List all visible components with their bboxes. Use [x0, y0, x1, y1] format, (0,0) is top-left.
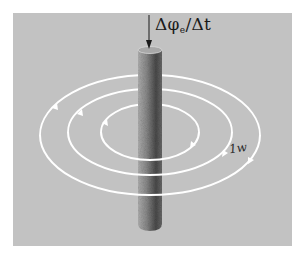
- flux-arrow-icon: [146, 15, 152, 49]
- delta-t: Δt: [191, 14, 211, 34]
- delta-symbol: Δ: [155, 14, 168, 34]
- phi-symbol: φ: [168, 14, 180, 34]
- conductor-rod: [138, 47, 162, 232]
- flux-change-label: Δφe/Δt: [155, 14, 211, 35]
- conductor-field-diagram: [0, 0, 300, 257]
- turn-label: 1w: [228, 140, 248, 156]
- rod-top: [138, 47, 162, 54]
